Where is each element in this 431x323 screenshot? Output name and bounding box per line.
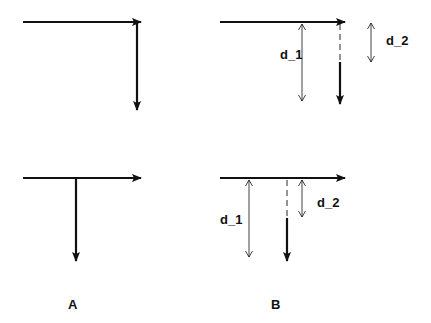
bottom-panel-b: d_1 d_2 B xyxy=(220,178,345,312)
panel-b-label: B xyxy=(271,297,280,312)
d2-label: d_2 xyxy=(317,195,339,210)
d1-label: d_1 xyxy=(220,212,242,227)
top-panel-b: d_1 d_2 xyxy=(220,22,408,104)
bottom-panel-a: A xyxy=(23,178,141,312)
d1-label: d_1 xyxy=(280,47,302,62)
panel-a-label: A xyxy=(68,297,78,312)
d2-label: d_2 xyxy=(386,33,408,48)
top-panel-a xyxy=(23,22,141,110)
diagram-canvas: d_1 d_2 A d_1 d_2 B xyxy=(0,0,431,323)
